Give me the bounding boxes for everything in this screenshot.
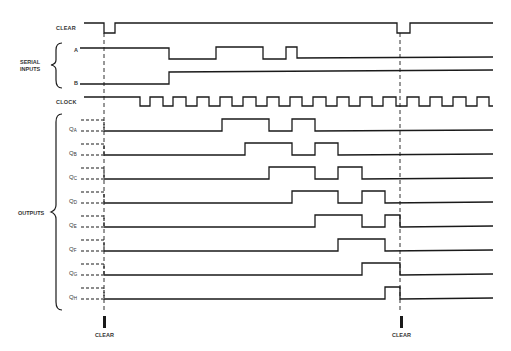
qc-waveform — [104, 167, 493, 179]
qb-undefined — [81, 144, 104, 155]
qg-waveform — [104, 263, 493, 275]
a-waveform — [80, 47, 493, 59]
qe-undefined — [81, 216, 104, 227]
outputs-brace — [51, 114, 62, 310]
qf-undefined — [81, 240, 104, 251]
timing-diagram-canvas — [0, 0, 511, 351]
qf-waveform — [104, 239, 493, 251]
serial-inputs-brace — [51, 43, 62, 88]
qa-undefined — [81, 120, 104, 131]
qh-undefined — [81, 288, 104, 299]
qd-undefined — [81, 192, 104, 203]
clock-waveform — [84, 97, 493, 106]
b-waveform — [80, 70, 493, 84]
qg-undefined — [81, 264, 104, 275]
clear-waveform — [84, 23, 493, 33]
qh-waveform — [104, 287, 493, 299]
qd-waveform — [104, 191, 493, 203]
qa-waveform — [104, 119, 493, 131]
qe-waveform — [104, 215, 493, 227]
qb-waveform — [104, 143, 493, 155]
qc-undefined — [81, 168, 104, 179]
